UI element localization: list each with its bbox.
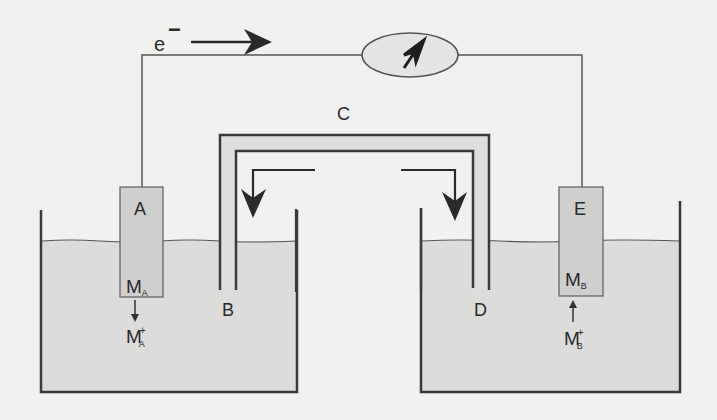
label-b: B bbox=[222, 300, 234, 320]
label-c: C bbox=[337, 104, 350, 124]
label-d: D bbox=[474, 300, 487, 320]
electron-label: e bbox=[154, 33, 165, 55]
label-e: E bbox=[574, 199, 586, 219]
galvanic-cell-diagram: e − A E C B D MA M+A MB M+B bbox=[0, 0, 717, 420]
left-solution bbox=[42, 241, 296, 391]
label-a: A bbox=[134, 199, 146, 219]
left-flow-arrow bbox=[253, 170, 315, 205]
galvanometer bbox=[362, 33, 458, 77]
external-wire bbox=[142, 55, 582, 187]
electron-charge: − bbox=[168, 17, 181, 42]
right-solution bbox=[422, 241, 679, 391]
